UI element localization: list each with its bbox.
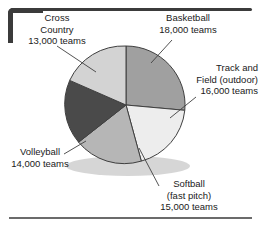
slice-label-basketball: Basketball 18,000 teams [140,12,236,35]
slice-label-track-and-field: Track and Field (outdoor) 16,000 teams [182,62,258,97]
slice-label-softball: Softball (fast pitch) 15,000 teams [146,178,232,213]
slice-label-volleyball: Volleyball 14,000 teams [2,146,78,169]
slice-label-cross-country: Cross Country 13,000 teams [14,12,100,47]
pie-chart-figure: Cross Country 13,000 teams Basketball 18… [0,0,260,227]
pie-slice-basketball [126,46,185,110]
